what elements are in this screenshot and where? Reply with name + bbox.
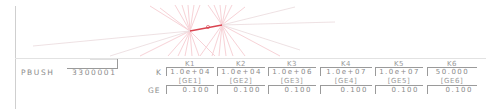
panel-divider (15, 58, 486, 59)
k6-value-field[interactable]: 50.000 (427, 67, 477, 76)
ge5-label: [GE5] (375, 77, 423, 85)
selected-bush-element (190, 25, 222, 31)
property-id-field[interactable]: 3300001 (72, 68, 117, 77)
model-graphics-view[interactable] (0, 0, 486, 58)
row-label-k: K (156, 68, 161, 77)
ge4-label: [GE4] (320, 77, 372, 85)
ge4-value-field[interactable]: 0.100 (320, 85, 372, 94)
ge5-value-field[interactable]: 0.100 (375, 85, 423, 94)
ge3-value-field[interactable]: 0.100 (268, 85, 316, 94)
ge1-label: [GE1] (166, 77, 214, 85)
ge2-label: [GE2] (217, 77, 265, 85)
ge2-value-field[interactable]: 0.100 (217, 85, 265, 94)
k2-value-field[interactable]: 1.0e+04 (217, 67, 265, 76)
ge3-label: [GE3] (268, 77, 316, 85)
k3-value-field[interactable]: 1.0e+06 (268, 67, 316, 76)
k4-value-field[interactable]: 1.0e+07 (320, 67, 372, 76)
long-beam-lines (33, 7, 335, 56)
id-field-top-rule (90, 59, 118, 60)
ge1-value-field[interactable]: 0.100 (166, 85, 214, 94)
radial-spoke-lines (140, 5, 280, 56)
k5-value-field[interactable]: 1.0e+07 (375, 67, 423, 76)
card-name-label: PBUSH (21, 68, 55, 77)
ge6-value-field[interactable]: 0.100 (427, 85, 477, 94)
k1-value-field[interactable]: 1.0e+04 (166, 67, 214, 76)
ge6-label: [GE6] (427, 77, 477, 85)
row-label-ge: GE (148, 86, 161, 95)
id-field-bracket (117, 59, 118, 69)
